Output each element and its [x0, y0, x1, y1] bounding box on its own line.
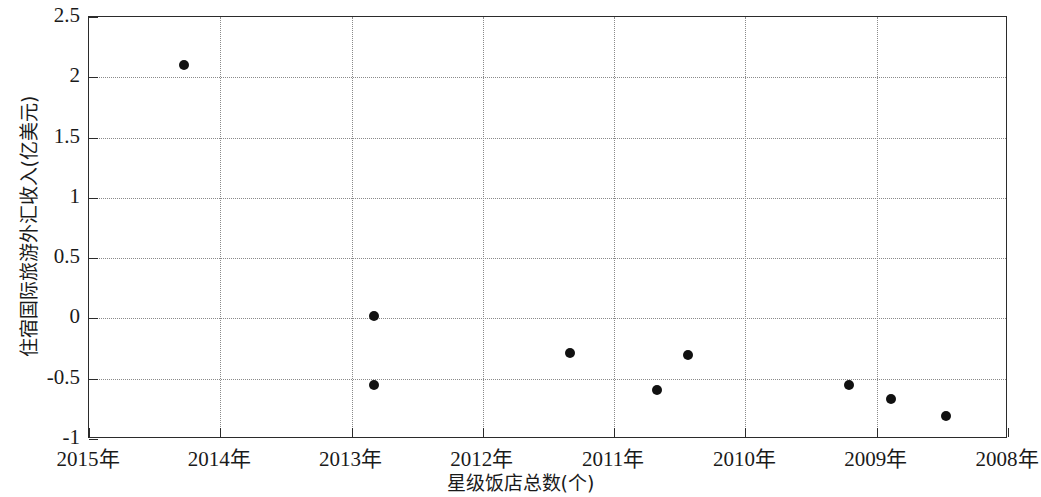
x-gridline: [877, 17, 878, 437]
x-axis-tick: [220, 428, 221, 437]
data-point: [652, 385, 662, 395]
data-point: [565, 348, 575, 358]
y-axis-tick-label: 2.5: [10, 5, 80, 26]
y-axis-tick: [89, 17, 98, 18]
x-axis-tick: [352, 428, 353, 437]
x-gridline: [745, 17, 746, 437]
x-axis-tick-label: 2014年: [149, 449, 289, 470]
x-gridline: [483, 17, 484, 437]
x-axis-tick-label: 2013年: [281, 449, 421, 470]
x-axis-tick-label: 2012年: [412, 449, 552, 470]
y-axis-tick-label: -1: [10, 427, 80, 448]
y-axis-tick: [89, 379, 98, 380]
y-gridline: [89, 138, 1006, 139]
x-axis-tick: [614, 428, 615, 437]
data-point: [369, 380, 379, 390]
x-axis-tick: [745, 428, 746, 437]
y-axis-tick-label: 0: [10, 306, 80, 327]
y-axis-tick-label: -0.5: [10, 367, 80, 388]
x-axis-tick-label: 2011年: [543, 449, 683, 470]
x-axis-tick-label: 2010年: [674, 449, 814, 470]
x-axis-tick: [89, 428, 90, 437]
y-axis-tick-label: 1: [10, 186, 80, 207]
y-gridline: [89, 318, 1006, 319]
plot-area: [88, 16, 1007, 438]
y-axis-tick-label: 1.5: [10, 126, 80, 147]
data-point: [369, 311, 379, 321]
x-axis-tick: [1008, 428, 1009, 437]
x-axis-title: 星级饭店总数(个): [0, 468, 1041, 495]
data-point: [941, 411, 951, 421]
data-point: [179, 60, 189, 70]
y-axis-tick: [89, 439, 98, 440]
x-axis-tick: [483, 428, 484, 437]
data-point: [886, 394, 896, 404]
data-point: [844, 380, 854, 390]
y-axis-tick: [89, 198, 98, 199]
y-axis-tick: [89, 258, 98, 259]
y-axis-tick: [89, 318, 98, 319]
y-gridline: [89, 198, 1006, 199]
data-point: [683, 350, 693, 360]
x-axis-tick-label: 2015年: [18, 449, 158, 470]
y-axis-tick-label: 2: [10, 65, 80, 86]
x-axis-tick: [877, 428, 878, 437]
x-gridline: [352, 17, 353, 437]
y-axis-tick: [89, 77, 98, 78]
y-gridline: [89, 379, 1006, 380]
y-axis-tick: [89, 138, 98, 139]
x-axis-tick-label: 2009年: [806, 449, 946, 470]
y-gridline: [89, 258, 1006, 259]
scatter-chart-figure: 住宿国际旅游外汇收入(亿美元) 星级饭店总数(个) 2.521.510.50-0…: [0, 0, 1041, 497]
y-gridline: [89, 77, 1006, 78]
x-gridline: [220, 17, 221, 437]
y-axis-tick-label: 0.5: [10, 246, 80, 267]
x-axis-tick-label: 2008年: [937, 449, 1041, 470]
x-gridline: [614, 17, 615, 437]
